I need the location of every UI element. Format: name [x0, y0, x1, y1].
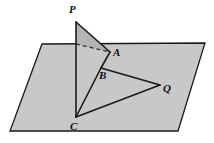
label-Q: Q — [163, 83, 171, 94]
label-P: P — [69, 4, 76, 15]
label-B: B — [99, 70, 106, 81]
geometry-canvas — [0, 0, 214, 143]
label-C: C — [70, 121, 77, 132]
label-A: A — [113, 47, 120, 58]
geometry-figure: P A B Q C — [0, 0, 214, 143]
